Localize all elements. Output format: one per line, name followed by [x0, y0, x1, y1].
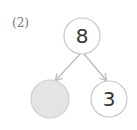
arrow-left [56, 54, 80, 80]
arrow-right [84, 54, 106, 80]
part-circle-blank[interactable] [31, 80, 69, 118]
part-circle-known: 3 [91, 81, 127, 117]
whole-circle: 8 [64, 18, 100, 54]
number-bond-graphic: 8 3 [0, 0, 137, 130]
number-bond-diagram: (2) 8 3 [0, 0, 137, 130]
part-value-known: 3 [103, 87, 116, 111]
whole-value: 8 [76, 24, 89, 48]
